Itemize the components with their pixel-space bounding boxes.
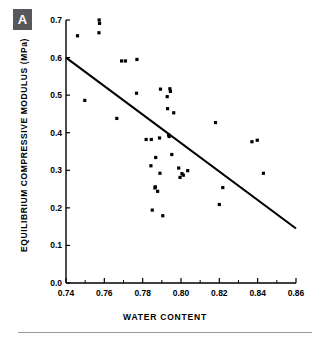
data-point [166,107,169,110]
data-point [169,90,172,93]
data-point [120,59,123,62]
data-point [154,156,157,159]
data-point [256,139,259,142]
x-tick-label: 0.82 [199,288,239,298]
data-point [151,209,154,212]
x-tick-label: 0.80 [161,288,201,298]
data-point [135,92,138,95]
data-point [158,172,161,175]
data-point [97,31,100,34]
y-tick-label: 0.5 [34,90,62,100]
y-tick-label: 0.0 [34,278,62,288]
x-tick-label: 0.84 [238,288,278,298]
data-point [115,117,118,120]
x-tick-label: 0.86 [276,288,316,298]
y-tick-label: 0.4 [34,128,62,138]
data-point [124,59,127,62]
data-point [161,214,164,217]
figure-panel-a: A EQUILIBRIUM COMPRESSIVE MODULUS (MPa) … [0,0,330,338]
x-tick-label: 0.74 [46,288,86,298]
tick-marks [66,20,296,283]
data-point [76,34,79,37]
data-point [168,135,171,138]
data-point [214,121,217,124]
data-point [186,169,189,172]
data-point [98,18,101,21]
data-point [83,99,86,102]
data-point [98,22,101,25]
trend-line [66,58,296,229]
x-tick-label: 0.78 [123,288,163,298]
axis-lines [66,20,296,283]
data-point [218,203,221,206]
data-point [149,164,152,167]
data-point [158,136,161,139]
y-tick-label: 0.1 [34,240,62,250]
data-point [159,88,162,91]
y-tick-label: 0.2 [34,203,62,213]
data-point [150,138,153,141]
data-point [221,186,224,189]
data-point [262,172,265,175]
data-point [166,95,169,98]
data-point [145,138,148,141]
data-point [153,186,156,189]
data-point [172,111,175,114]
data-point [135,58,138,61]
y-tick-label: 0.6 [34,53,62,63]
figure-bottom-rule [18,332,312,333]
y-tick-label: 0.3 [34,165,62,175]
y-tick-label: 0.7 [34,15,62,25]
data-point [156,190,159,193]
x-axis-tick-labels: 0.740.760.780.800.820.840.86 [0,288,330,302]
data-point [178,176,181,179]
data-markers [76,18,265,217]
x-tick-label: 0.76 [84,288,124,298]
data-point [250,140,253,143]
data-point [182,174,185,177]
data-point [170,153,173,156]
data-point [177,166,180,169]
